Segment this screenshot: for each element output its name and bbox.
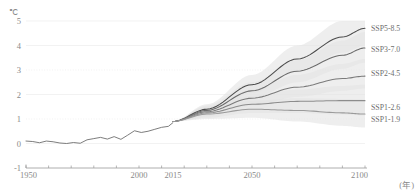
y-tick-label-4: 4 (17, 41, 22, 51)
y-axis-unit-label: ℃ (9, 8, 18, 17)
y-tick-label-0: 0 (17, 139, 21, 149)
ytick-label-layer: 543210-1 (14, 16, 22, 173)
y-tick-label-1: 1 (17, 114, 21, 124)
x-tick-label-2015: 2015 (164, 170, 181, 180)
y-tick-label-2: 2 (17, 90, 21, 100)
legend-layer: SSP5-8.5SSP3-7.0SSP2-4.5SSP1-2.6SSP1-1.9 (371, 24, 400, 124)
xtick-label-layer: 19502000201520502100 (20, 170, 368, 180)
x-tick-label-2050: 2050 (244, 170, 261, 180)
temperature-projection-chart: 543210-1 19502000201520502100 SSP5-8.5SS… (0, 0, 416, 195)
historical-observation-line (26, 123, 173, 144)
legend-label-SSP1-1.9: SSP1-1.9 (371, 115, 400, 124)
axis-layer (26, 165, 367, 169)
y-tick-label-3: 3 (17, 65, 21, 75)
legend-label-SSP5-8.5: SSP5-8.5 (371, 24, 400, 33)
x-tick-label-2100: 2100 (351, 170, 368, 180)
legend-label-SSP2-4.5: SSP2-4.5 (371, 69, 400, 78)
y-tick-label-5: 5 (17, 16, 21, 26)
x-tick-label-2000: 2000 (131, 170, 148, 180)
historical-layer (26, 123, 173, 144)
x-axis-label: (年) (399, 180, 414, 190)
chart-canvas: 543210-1 19502000201520502100 SSP5-8.5SS… (0, 0, 416, 195)
x-tick-label-1950: 1950 (20, 170, 37, 180)
legend-label-SSP1-2.6: SSP1-2.6 (371, 103, 400, 112)
legend-label-SSP3-7.0: SSP3-7.0 (371, 45, 400, 54)
